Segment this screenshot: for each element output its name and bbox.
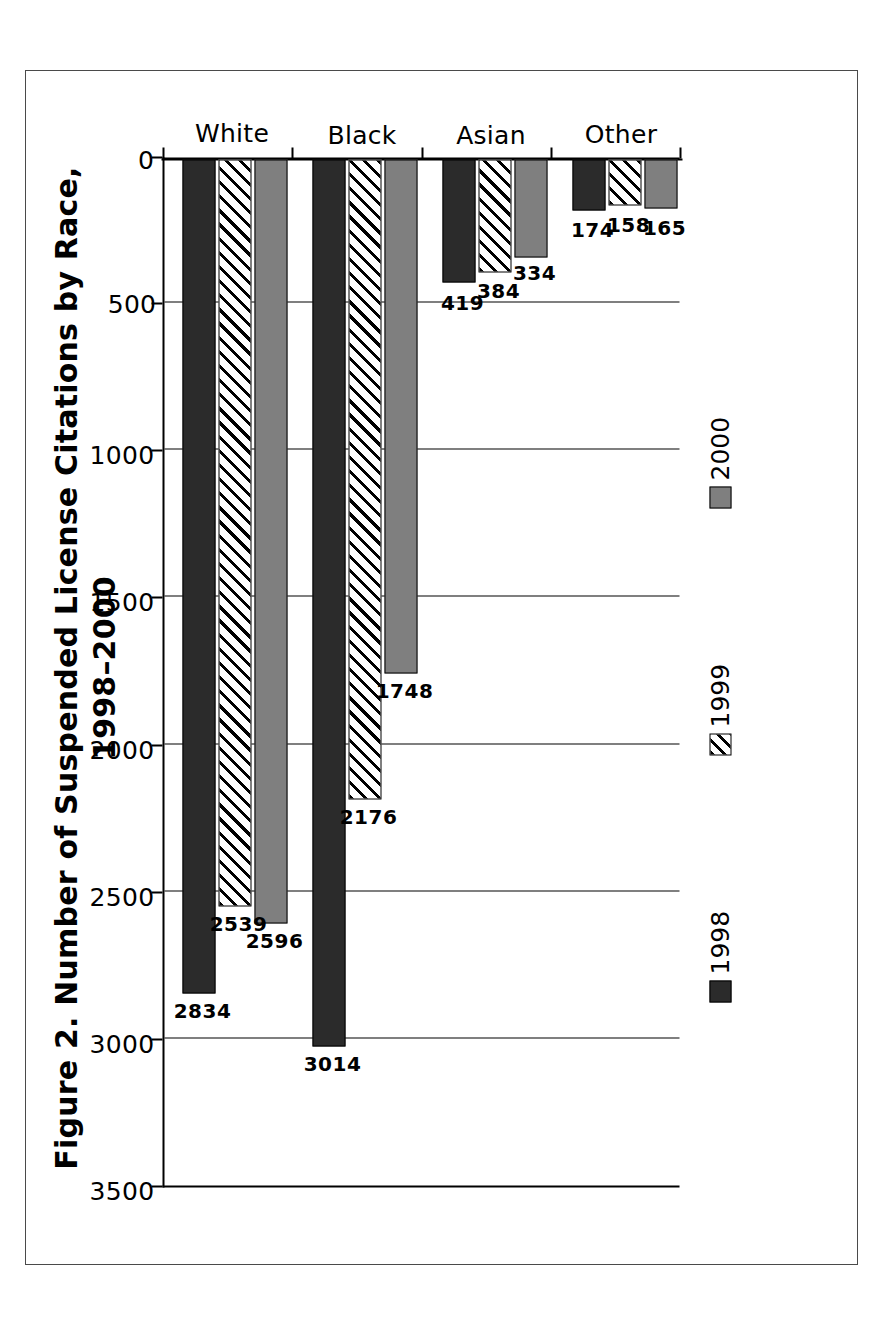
category-label-asian: Asian	[456, 121, 526, 150]
category-tick-4	[679, 147, 681, 158]
value-tick-label-3000: 3000	[89, 1029, 154, 1058]
bar-white-2000[interactable]	[254, 159, 287, 923]
legend-label-1999: 1999	[705, 663, 734, 727]
bar-black-2000[interactable]	[384, 159, 417, 673]
bar-group-asian: 419 384 334	[442, 159, 554, 1185]
chart-legend: 1998 1999 2000	[705, 157, 765, 1187]
bar-value-white-1998: 2834	[173, 998, 231, 1022]
legend-label-2000: 2000	[705, 416, 734, 480]
bar-black-1998[interactable]	[312, 159, 345, 1046]
figure-frame: Figure 2. Number of Suspended License Ci…	[25, 70, 858, 1265]
value-tick-label-2000: 2000	[89, 735, 154, 764]
category-tick-2	[421, 147, 423, 158]
legend-item-2000[interactable]: 2000	[705, 416, 734, 508]
value-tick-label-1500: 1500	[89, 587, 154, 616]
bar-value-black-1999: 2176	[339, 804, 397, 828]
bar-value-black-1998: 3014	[303, 1051, 361, 1075]
bar-other-1999[interactable]	[608, 159, 641, 205]
legend-swatch-1999-icon	[709, 733, 731, 755]
chart-canvas: Figure 2. Number of Suspended License Ci…	[25, 70, 858, 1265]
bar-black-1999[interactable]	[348, 159, 381, 799]
legend-label-1998: 1998	[705, 910, 734, 974]
bar-value-other-2000: 165	[642, 215, 685, 239]
plot-area: 2834 2539 2596 3014 2176 1748 419 384	[162, 157, 679, 1187]
bar-asian-1998[interactable]	[442, 159, 475, 282]
value-tick-label-3500: 3500	[89, 1176, 154, 1205]
bar-group-other: 174 158 165	[572, 159, 684, 1185]
bar-other-2000[interactable]	[644, 159, 677, 208]
value-tick-label-0: 0	[137, 145, 153, 174]
legend-swatch-2000-icon	[709, 486, 731, 508]
category-tick-1	[291, 147, 293, 158]
chart-title: Figure 2. Number of Suspended License Ci…	[47, 70, 124, 1265]
bar-white-1998[interactable]	[182, 159, 215, 993]
bar-group-black: 3014 2176 1748	[312, 159, 424, 1185]
chart-title-line-1: Figure 2. Number of Suspended License Ci…	[47, 70, 85, 1265]
legend-item-1998[interactable]: 1998	[705, 910, 734, 1002]
legend-item-1999[interactable]: 1999	[705, 663, 734, 755]
bar-value-black-2000: 1748	[375, 678, 433, 702]
bar-asian-2000[interactable]	[514, 159, 547, 257]
value-tick-label-1000: 1000	[89, 440, 154, 469]
category-label-black: Black	[327, 121, 396, 150]
bar-value-asian-2000: 334	[512, 260, 555, 284]
category-label-other: Other	[584, 119, 656, 148]
legend-swatch-1998-icon	[709, 980, 731, 1002]
bar-white-1999[interactable]	[218, 159, 251, 906]
chart-title-line-2: 1998–2000	[85, 70, 123, 1265]
category-label-white: White	[194, 118, 268, 147]
bar-asian-1999[interactable]	[478, 159, 511, 272]
bar-group-white: 2834 2539 2596	[182, 159, 294, 1185]
value-tick-label-500: 500	[107, 289, 156, 318]
bar-other-1998[interactable]	[572, 159, 605, 210]
bar-value-white-2000: 2596	[245, 928, 303, 952]
value-tick-label-2500: 2500	[89, 882, 154, 911]
category-tick-3	[550, 147, 552, 158]
